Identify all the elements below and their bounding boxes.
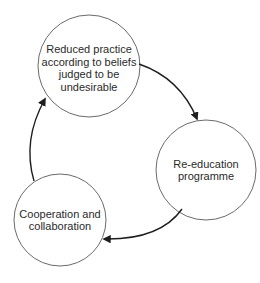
arrow-re-education-to-cooperation bbox=[104, 209, 182, 239]
node-label-reduced-practice: Reduced practice according to beliefs ju… bbox=[38, 40, 140, 96]
node-label-re-education: Re-education programme bbox=[156, 155, 256, 185]
node-label-cooperation: Cooperation and collaboration bbox=[14, 205, 106, 235]
arrow-cooperation-to-reduced-practice bbox=[30, 99, 45, 181]
cycle-diagram: Reduced practice according to beliefs ju… bbox=[0, 0, 260, 283]
arrow-reduced-practice-to-re-education bbox=[139, 64, 197, 119]
